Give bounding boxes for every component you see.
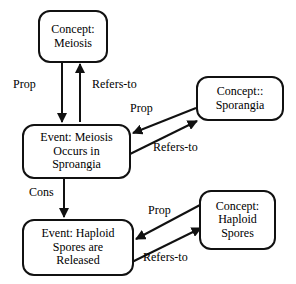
node-event-meiosis-occurs-in-sproangia[interactable]: Event: Meiosis Occurs in Sproangia [22,124,131,179]
diagram-canvas: Event: Meiosis --> Concept: Meiosis --> … [0,0,296,284]
node-label-line: Event: Haploid [42,227,115,240]
node-label-line: Sproangia [52,158,101,171]
node-label-line: Released [56,254,99,267]
node-label-line: Concept: [216,200,259,213]
node-label-line: Spores [221,227,254,240]
node-label-line: Spores are [53,241,103,254]
node-concept-meiosis[interactable]: Concept: Meiosis [38,10,108,63]
edge-label-refers-to-haploid-spores: Refers-to [143,250,188,265]
edge-label-cons: Cons [29,185,54,200]
node-label-line: Sporangia [216,99,265,112]
node-label-line: Haploid [218,213,257,226]
node-label-line: Event: Meiosis [40,131,112,144]
edge-label-prop-haploid-spores: Prop [148,203,171,218]
edge-label-refers-to-sporangia: Refers-to [153,140,198,155]
node-label-line: Concept: [51,23,94,36]
edge-label-refers-to-meiosis: Refers-to [92,77,137,92]
node-label-line: Meiosis [54,37,92,50]
node-label-line: Occurs in [53,145,99,158]
node-concept-haploid-spores[interactable]: Concept: Haploid Spores [199,190,276,250]
node-label-line: Concept:: [217,85,264,98]
edge-label-prop-meiosis: Prop [13,77,36,92]
node-concept-sporangia[interactable]: Concept:: Sporangia [196,76,284,121]
node-event-haploid-spores-are-released[interactable]: Event: Haploid Spores are Released [22,219,134,276]
edge-label-prop-sporangia: Prop [130,101,153,116]
